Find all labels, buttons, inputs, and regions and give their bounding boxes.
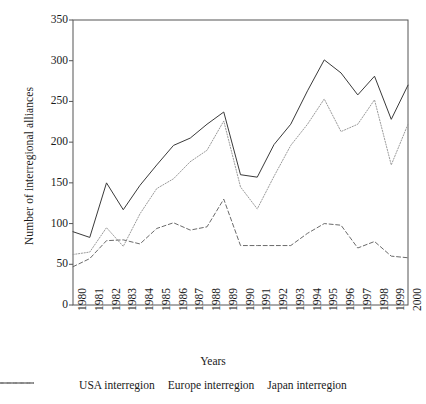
x-axis-tick-label: 1981 (94, 288, 106, 311)
x-axis-tick-label: 1984 (144, 288, 156, 311)
x-axis-tick-label: 1994 (312, 288, 324, 311)
x-axis-tick-label: 1986 (178, 288, 190, 311)
legend-label: Europe interregion (168, 379, 255, 391)
x-axis-tick-label: 1985 (161, 288, 173, 311)
x-axis-tick-label: 1990 (245, 288, 257, 311)
x-axis-tick-label: 1998 (379, 288, 391, 311)
x-axis-title: Years (0, 355, 426, 367)
dotted-line-icon (0, 379, 34, 387)
x-axis-tick-label: 1995 (328, 288, 340, 311)
line-chart: Number of interregional alliances 050100… (0, 0, 426, 404)
x-axis-tick-label: 1988 (211, 288, 223, 311)
x-axis-tick-label: 1997 (362, 288, 374, 311)
legend-item[interactable]: USA interregion (79, 379, 155, 391)
legend-label: USA interregion (79, 379, 155, 391)
legend-item[interactable]: Europe interregion (168, 379, 255, 391)
x-axis-tick-label: 2000 (412, 288, 424, 311)
x-axis-tick-label: 1999 (395, 288, 407, 311)
x-axis-tick-label: 1983 (127, 288, 139, 311)
x-axis-tick-label: 1993 (295, 288, 307, 311)
legend-item[interactable]: Japan interregion (267, 379, 347, 391)
x-axis-tick-label: 1980 (77, 288, 89, 311)
chart-legend: USA interregionEurope interregionJapan i… (0, 379, 426, 391)
x-axis-tick-label: 1987 (194, 288, 206, 311)
x-axis-tick-label: 1991 (261, 288, 273, 311)
x-axis-tick-label: 1982 (111, 288, 123, 311)
x-axis-tick-label: 1996 (345, 288, 357, 311)
legend-label: Japan interregion (267, 379, 347, 391)
x-axis-tick-labels: 1980198119821983198419851986198719881989… (0, 0, 426, 404)
x-axis-tick-label: 1989 (228, 288, 240, 311)
x-axis-tick-label: 1992 (278, 288, 290, 311)
